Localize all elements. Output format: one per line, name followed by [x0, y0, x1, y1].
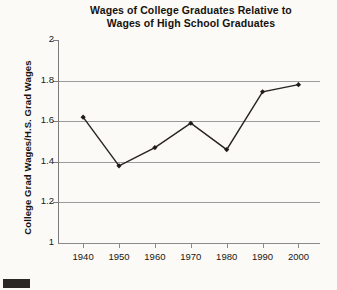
scan-artifact — [3, 279, 30, 288]
data-point-marker — [296, 82, 301, 87]
data-series-layer — [0, 0, 337, 290]
wages-line-chart: Wages of College Graduates Relative to W… — [0, 0, 337, 290]
